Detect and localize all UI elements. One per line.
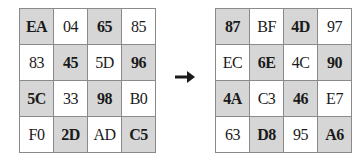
left-cell-1-1: 45 [54,45,87,80]
right-cell-0-3: 97 [318,9,351,44]
left-cell-0-3: 85 [122,9,155,44]
left-cell-1-0: 83 [20,45,53,80]
left-cell-1-2: 5D [88,45,121,80]
left-cell-2-3: B0 [122,81,155,116]
left-cell-0-2: 65 [88,9,121,44]
left-cell-3-2: AD [88,117,121,152]
right-cell-1-3: 90 [318,45,351,80]
left-grid: EA 04 65 85 83 45 5D 96 5C 33 98 B0 F0 2… [19,8,156,153]
right-cell-2-1: C3 [250,81,283,116]
left-cell-3-0: F0 [20,117,53,152]
right-cell-3-3: A6 [318,117,351,152]
left-cell-2-2: 98 [88,81,121,116]
right-cell-2-3: E7 [318,81,351,116]
left-cell-3-1: 2D [54,117,87,152]
right-cell-0-2: 4D [284,9,317,44]
right-cell-3-0: 63 [216,117,249,152]
left-cell-0-1: 04 [54,9,87,44]
right-cell-0-1: BF [250,9,283,44]
right-arrow-icon [174,70,196,84]
right-cell-2-2: 46 [284,81,317,116]
right-cell-1-2: 4C [284,45,317,80]
left-cell-0-0: EA [20,9,53,44]
right-cell-0-0: 87 [216,9,249,44]
left-cell-1-3: 96 [122,45,155,80]
left-cell-3-3: C5 [122,117,155,152]
right-cell-3-2: 95 [284,117,317,152]
left-cell-2-0: 5C [20,81,53,116]
right-cell-1-1: 6E [250,45,283,80]
right-cell-3-1: D8 [250,117,283,152]
right-grid: 87 BF 4D 97 EC 6E 4C 90 4A C3 46 E7 63 D… [215,8,352,153]
right-cell-1-0: EC [216,45,249,80]
left-cell-2-1: 33 [54,81,87,116]
right-cell-2-0: 4A [216,81,249,116]
